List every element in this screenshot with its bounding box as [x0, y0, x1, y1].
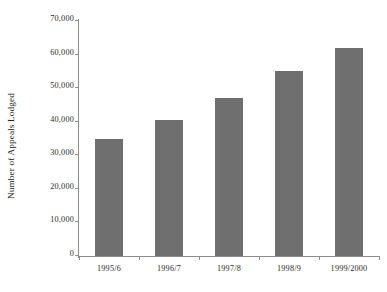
y-tick-label: 40,000 — [14, 115, 74, 124]
bars-group — [79, 21, 379, 256]
x-tick-mark — [379, 256, 380, 260]
x-tick-label: 1998/9 — [277, 264, 301, 273]
y-tick-label: 60,000 — [14, 48, 74, 57]
bar — [95, 139, 123, 257]
bar — [215, 98, 243, 256]
y-tick-label: 20,000 — [14, 182, 74, 191]
x-tick-mark — [259, 256, 260, 260]
y-tick-label: 50,000 — [14, 81, 74, 90]
bar — [275, 71, 303, 256]
x-tick-mark — [199, 256, 200, 260]
x-tick-mark — [319, 256, 320, 260]
x-tick-label: 1999/2000 — [331, 264, 368, 273]
x-tick-mark — [139, 256, 140, 260]
bar — [335, 48, 363, 256]
y-tick-label: 0 — [14, 249, 74, 258]
bar — [155, 120, 183, 256]
y-tick-label: 70,000 — [14, 14, 74, 23]
x-axis-line — [79, 256, 379, 257]
y-tick-label: 30,000 — [14, 148, 74, 157]
x-tick-label: 1996/7 — [157, 264, 181, 273]
x-tick-label: 1997/8 — [217, 264, 241, 273]
x-tick-mark — [79, 256, 80, 260]
y-tick-label: 10,000 — [14, 215, 74, 224]
bar-chart: Number of Appeals Lodged 010,00020,00030… — [0, 0, 387, 292]
x-tick-label: 1995/6 — [97, 264, 121, 273]
